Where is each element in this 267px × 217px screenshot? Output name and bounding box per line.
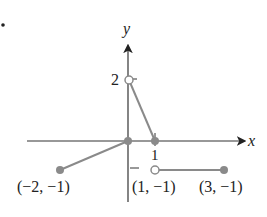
y-tick-label-2: 2	[111, 71, 119, 88]
open-point-1-neg1	[151, 166, 159, 174]
x-tick-label-1: 1	[151, 147, 159, 163]
segment-1	[60, 141, 128, 170]
annotation-3-neg1: (3, −1)	[199, 178, 243, 196]
list-bullet	[1, 23, 5, 27]
x-axis-label: x	[247, 132, 255, 149]
point-neg2-neg1	[56, 166, 64, 174]
point-3-neg1	[220, 166, 228, 174]
point-origin	[124, 137, 132, 145]
piecewise-graph: y x 2 1 (−2, −1) (1, −1) (3, −1)	[0, 0, 267, 217]
annotation-neg2-neg1: (−2, −1)	[17, 178, 70, 196]
annotation-1-neg1: (1, −1)	[132, 178, 176, 196]
open-point-0-2	[125, 76, 133, 84]
point-1-0	[151, 137, 159, 145]
segment-2	[129, 80, 155, 141]
y-axis-label: y	[121, 20, 131, 38]
